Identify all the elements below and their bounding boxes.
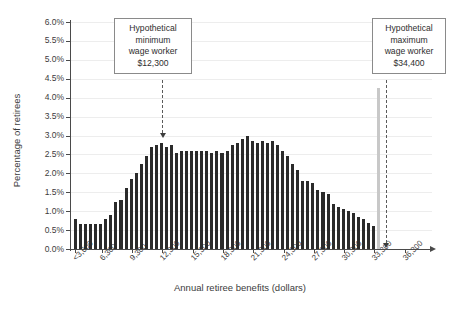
bar: [347, 211, 350, 249]
y-axis-title-wrap: Percentage of retirees: [0, 0, 20, 309]
bar: [215, 151, 218, 249]
bar: [84, 224, 87, 249]
bar: [170, 145, 173, 249]
callout-line: wage worker: [118, 46, 188, 58]
y-axis-tick-label: 0.5%: [45, 225, 64, 235]
bar: [327, 194, 330, 249]
callout-line: Hypothetical: [376, 23, 442, 35]
bar: [367, 223, 370, 249]
callout-line: minimum: [118, 35, 188, 47]
bar: [79, 224, 82, 249]
y-axis-tick-label: 4.0%: [45, 92, 64, 102]
y-axis-tick-label: 3.5%: [45, 111, 64, 121]
bar: [261, 141, 264, 249]
bar: [180, 151, 183, 249]
bar: [130, 179, 133, 249]
y-axis-tick-label: 5.5%: [45, 35, 64, 45]
bar: [140, 164, 143, 249]
bar: [220, 153, 223, 249]
bar: [125, 188, 128, 249]
bar: [205, 151, 208, 249]
bar: [119, 200, 122, 249]
bar: [114, 202, 117, 249]
bar: [175, 153, 178, 249]
y-axis-tick-label: 6.0%: [45, 17, 64, 27]
bar: [135, 173, 138, 249]
callout-maximum-wage: Hypothetical maximum wage worker $34,400: [372, 18, 446, 74]
bar: [362, 219, 365, 249]
bar: [109, 215, 112, 249]
bar: [342, 209, 345, 249]
callout-minimum-wage: Hypothetical minimum wage worker $12,300: [114, 18, 192, 74]
bar: [251, 141, 254, 249]
bar: [271, 141, 274, 249]
bar: [145, 156, 148, 249]
bar: [226, 151, 229, 249]
y-axis-tick-label: 1.0%: [45, 206, 64, 216]
max-wage-dashed-line: [386, 80, 387, 243]
x-axis-title: Annual retiree benefits (dollars): [90, 282, 390, 293]
bar: [316, 190, 319, 249]
bar: [372, 226, 375, 249]
bar: [246, 136, 249, 250]
chart-container: Percentage of retirees Annual retiree be…: [0, 0, 460, 309]
bar: [321, 192, 324, 249]
bar: [236, 143, 239, 249]
bar: [155, 145, 158, 249]
bar: [311, 183, 314, 249]
y-axis-tick-label: 1.5%: [45, 187, 64, 197]
y-axis-tick-label: 0.0%: [45, 244, 64, 254]
arrow-down-icon: [160, 133, 166, 138]
y-axis-title: Percentage of retirees: [11, 61, 22, 221]
callout-line: $34,400: [376, 58, 442, 70]
bar: [357, 217, 360, 249]
bar: [150, 147, 153, 249]
callout-line: maximum: [376, 35, 442, 47]
bar: [231, 145, 234, 249]
bar: [104, 219, 107, 249]
y-axis-tick-label: 5.0%: [45, 54, 64, 64]
bar: [89, 224, 92, 249]
bar: [165, 147, 168, 249]
x-axis-line: [70, 249, 432, 250]
bar: [185, 151, 188, 249]
y-axis-tick-label: 2.5%: [45, 149, 64, 159]
y-axis-tick-label: 3.0%: [45, 130, 64, 140]
bar: [99, 224, 102, 249]
bar: [200, 151, 203, 249]
bar: [301, 181, 304, 249]
bar: [74, 219, 77, 249]
bar: [276, 145, 279, 249]
callout-line: Hypothetical: [118, 23, 188, 35]
bar: [256, 143, 259, 249]
y-axis-tick-label: 4.5%: [45, 73, 64, 83]
bar: [281, 151, 284, 249]
bar: [160, 143, 163, 249]
bar: [241, 139, 244, 249]
arrow-down-icon: [383, 243, 389, 248]
bar: [337, 207, 340, 249]
bar: [94, 224, 97, 249]
bar: [332, 204, 335, 249]
min-wage-dashed-line: [162, 80, 163, 133]
bar: [195, 151, 198, 249]
bar: [286, 156, 289, 249]
bar: [291, 164, 294, 249]
bar: [352, 213, 355, 249]
bar: [296, 170, 299, 249]
y-axis-tick-label: 2.0%: [45, 168, 64, 178]
callout-line: $12,300: [118, 58, 188, 70]
end-of-distribution-line: [377, 88, 380, 249]
bar: [210, 153, 213, 249]
bar: [190, 151, 193, 249]
callout-line: wage worker: [376, 46, 442, 58]
bar: [266, 143, 269, 249]
bar: [306, 181, 309, 249]
